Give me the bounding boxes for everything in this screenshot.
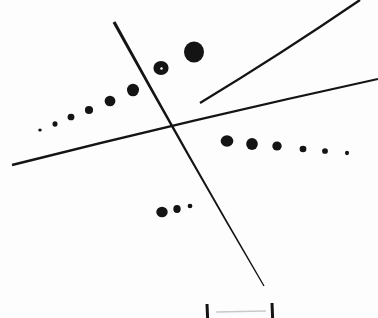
data-point (345, 151, 349, 155)
bottom-tick-left (207, 304, 208, 318)
data-point (188, 204, 193, 209)
data-point (300, 146, 307, 153)
dot-highlight-speck (160, 67, 162, 69)
figure-root: Hand-drawn dot-series and line figure (0, 0, 378, 318)
data-point (105, 96, 116, 107)
data-point (52, 121, 57, 126)
data-point (184, 41, 204, 62)
data-point (85, 106, 93, 114)
data-point (272, 141, 281, 150)
bottom-faint-rule (216, 311, 266, 312)
faint-mark-group (216, 311, 266, 312)
data-point (322, 148, 328, 154)
data-point (246, 138, 258, 150)
data-point (156, 207, 167, 217)
data-point (173, 205, 180, 213)
data-point (127, 84, 139, 97)
data-point (221, 135, 234, 147)
data-point (38, 128, 42, 131)
drawing-canvas (0, 0, 378, 318)
data-point (68, 114, 75, 121)
bottom-tick-right (272, 303, 273, 318)
